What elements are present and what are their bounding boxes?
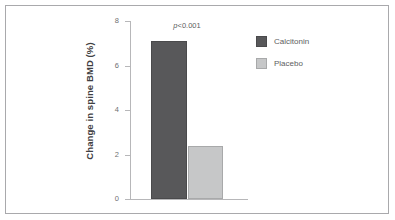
bar-placebo[interactable] bbox=[188, 146, 223, 199]
y-tick-mark bbox=[125, 21, 131, 22]
y-tick-label: 4 bbox=[101, 106, 119, 114]
y-tick-mark bbox=[125, 155, 131, 156]
plot-area: 8 6 4 2 0 Change in spine BMD (%) p<0.00… bbox=[0, 0, 395, 220]
y-tick-label: 0 bbox=[101, 195, 119, 203]
y-tick-label: 8 bbox=[101, 17, 119, 25]
legend-item-placebo[interactable]: Placebo bbox=[256, 54, 366, 72]
legend-swatch-icon bbox=[256, 36, 267, 47]
x-axis-baseline bbox=[130, 199, 248, 200]
figure-container: 8 6 4 2 0 Change in spine BMD (%) p<0.00… bbox=[0, 0, 395, 220]
y-tick-label: 2 bbox=[101, 151, 119, 159]
y-tick-mark bbox=[125, 110, 131, 111]
legend-label: Calcitonin bbox=[274, 37, 309, 46]
bar-calcitonin[interactable] bbox=[151, 41, 187, 199]
p-value-annotation: p<0.001 bbox=[152, 21, 222, 30]
legend-item-calcitonin[interactable]: Calcitonin bbox=[256, 32, 366, 50]
y-axis-label: Change in spine BMD (%) bbox=[84, 6, 98, 196]
legend-label: Placebo bbox=[274, 59, 303, 68]
y-tick-mark bbox=[125, 66, 131, 67]
y-tick-label: 6 bbox=[101, 62, 119, 70]
p-value-text: <0.001 bbox=[178, 21, 201, 30]
legend: Calcitonin Placebo bbox=[256, 32, 366, 76]
legend-swatch-icon bbox=[256, 58, 267, 69]
y-tick-mark bbox=[125, 199, 131, 200]
